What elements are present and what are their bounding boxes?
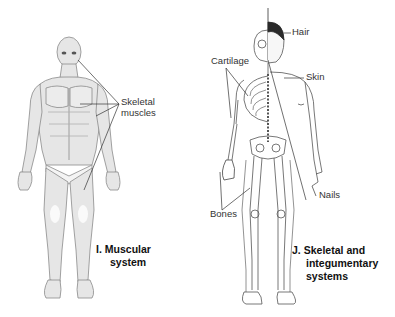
label-nails-text: Nails (319, 189, 340, 200)
caption-title-line2: system (96, 256, 151, 269)
caption-j-line3: systems (292, 270, 378, 283)
caption-muscular-system: I.Muscular system (96, 243, 151, 269)
label-skin-text: Skin (306, 71, 324, 82)
caption-j-line2: integumentary (292, 257, 378, 270)
caption-j-line1: Skeletal and (304, 244, 365, 256)
label-hair: Hair (292, 27, 309, 38)
label-hair-text: Hair (292, 26, 309, 37)
label-skeletal-muscles-line2: muscles (121, 107, 156, 118)
caption-letter-j: J. (292, 244, 301, 256)
label-skeletal-muscles: Skeletal muscles (121, 97, 156, 119)
caption-title-line1: Muscular (105, 243, 151, 255)
caption-skeletal-integumentary: J.Skeletal and integumentary systems (292, 244, 378, 283)
label-bones-text: Bones (210, 208, 237, 219)
label-bones: Bones (210, 209, 237, 220)
label-skin: Skin (306, 72, 324, 83)
caption-letter-i: I. (96, 243, 102, 255)
label-cartilage: Cartilage (211, 56, 249, 67)
label-skeletal-muscles-line1: Skeletal (121, 96, 155, 107)
label-cartilage-text: Cartilage (211, 55, 249, 66)
label-nails: Nails (319, 190, 340, 201)
